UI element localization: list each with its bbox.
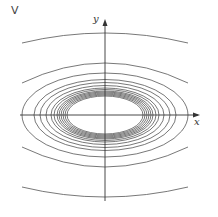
y-axis-label: y bbox=[93, 13, 99, 24]
x-axis-label: x bbox=[194, 116, 200, 127]
contour-plot bbox=[0, 0, 218, 217]
y-axis-arrow-icon bbox=[103, 19, 108, 26]
panel-label: V bbox=[11, 4, 19, 17]
